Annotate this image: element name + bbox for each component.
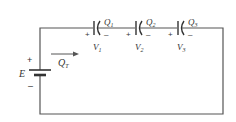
circuit-wires (40, 28, 223, 114)
capacitor-charge-label: Q1 (104, 17, 114, 28)
capacitor-plus-sign: + (126, 30, 131, 39)
wire-right-bottom (40, 28, 223, 114)
capacitor-voltage-label: V1 (93, 42, 102, 53)
source-label-e: E (18, 68, 25, 79)
battery-source: + – E (18, 55, 51, 91)
capacitor-minus-sign: – (104, 30, 109, 39)
battery-plus-sign: + (27, 55, 32, 65)
circuit-diagram: + – E QT Q1 + – V1 Q2 + – V2 Q3 + – V3 (0, 0, 236, 122)
battery-minus-sign: – (28, 81, 33, 91)
total-charge-label: QT (58, 57, 69, 69)
arrow-right-icon (73, 52, 79, 57)
capacitor-voltage-label: V3 (177, 42, 186, 53)
capacitor-2: Q2 + – V2 (126, 17, 156, 53)
capacitor-voltage-label: V2 (135, 42, 144, 53)
capacitor-charge-label: Q2 (146, 17, 156, 28)
charge-flow-indicator: QT (51, 52, 79, 70)
capacitor-charge-label: Q3 (188, 17, 198, 28)
capacitor-plus-sign: + (168, 30, 173, 39)
capacitor-minus-sign: – (188, 30, 193, 39)
capacitor-3: Q3 + – V3 (168, 17, 198, 53)
capacitor-plus-sign: + (85, 30, 90, 39)
capacitor-1: Q1 + – V1 (85, 17, 114, 53)
capacitor-minus-sign: – (146, 30, 151, 39)
